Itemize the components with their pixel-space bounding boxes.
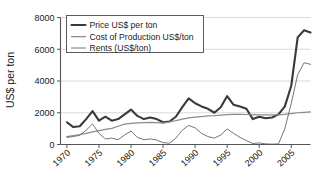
legend-label-1: Price US$ per ton	[90, 20, 158, 30]
x-tick-label: 1980	[115, 148, 137, 169]
y-tick-label: 2000	[34, 108, 54, 118]
y-tick-label: 4000	[34, 76, 54, 86]
x-tick-label: 2005	[275, 148, 297, 169]
y-tick-label: 0	[49, 140, 54, 150]
x-tick-label: 1985	[147, 148, 169, 169]
series-line-3	[67, 63, 311, 144]
y-axis-tick-labels: 02000400060008000	[34, 13, 54, 150]
legend-label-2: Cost of Production US$/ton	[90, 32, 194, 42]
y-tick-label: 8000	[34, 13, 54, 23]
chart-container: 02000400060008000 1970197519801985199019…	[0, 0, 316, 185]
x-tick-label: 1975	[83, 148, 105, 169]
y-tick-label: 6000	[34, 45, 54, 55]
y-axis-title: US$ per ton	[4, 52, 16, 108]
x-tick-label: 2000	[243, 148, 265, 169]
x-tick-label: 1970	[51, 148, 73, 169]
chart-legend: Price US$ per tonCost of Production US$/…	[67, 16, 204, 54]
price-cost-rents-line-chart: 02000400060008000 1970197519801985199019…	[0, 0, 316, 185]
x-tick-label: 1990	[179, 148, 201, 169]
x-axis-tick-labels: 19701975198019851990199520002005	[51, 148, 297, 169]
x-tick-label: 1995	[211, 148, 233, 169]
legend-label-3: Rents (US$/ton)	[90, 43, 152, 53]
